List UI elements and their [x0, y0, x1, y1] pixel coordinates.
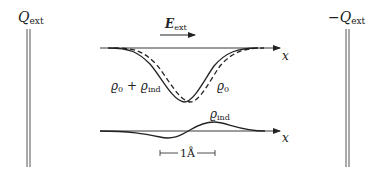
induced-charge-label: ϱind: [210, 107, 230, 122]
left-capacitor-plate: [27, 29, 30, 167]
left-plate-charge-label: Qext: [18, 9, 44, 26]
total-charge-curve: [108, 48, 258, 102]
total-charge-label: ϱ0 + ϱind: [111, 79, 161, 94]
induced-charge-diagram: Qext −Qext Eext x ϱ0 + ϱind ϱ0 x ϱind 1Å: [0, 0, 382, 173]
bare-charge-curve: [114, 48, 264, 102]
scale-bar-label: 1Å: [180, 146, 196, 160]
field-label: Eext: [164, 17, 187, 32]
top-x-axis-label: x: [282, 49, 289, 63]
right-capacitor-plate: [346, 29, 349, 167]
bare-charge-label: ϱ0: [217, 79, 229, 94]
right-plate-charge-label: −Qext: [328, 9, 366, 26]
induced-charge-curve: [100, 122, 265, 138]
bottom-x-axis-label: x: [282, 131, 289, 145]
